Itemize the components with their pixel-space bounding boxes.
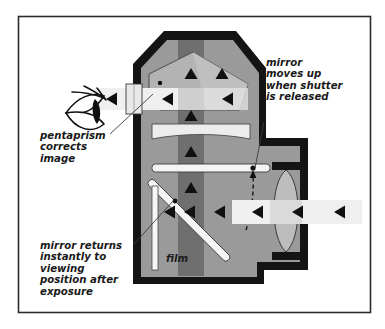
mirror-up-label-line-1: mirror (266, 57, 303, 68)
mirror-returns-line-4: position after (39, 274, 119, 285)
mirror-pivot-point (250, 165, 255, 170)
mirror-up-label-line-4: is released (266, 91, 329, 102)
mirror-up-position (152, 164, 270, 172)
pentaprism-label-line-1: pentaprism (39, 130, 106, 141)
mirror-returns-line-2: instantly to (40, 251, 106, 262)
eyepiece-viewfinder (126, 84, 142, 114)
mirror-up-label-line-2: moves up (266, 68, 321, 79)
camera-cross-section-diagram: pentaprism corrects image mirror moves u… (0, 0, 385, 329)
film-label: film (166, 253, 189, 264)
lens-mount-top (272, 162, 300, 170)
eyepiece-beam-overlap (178, 88, 204, 110)
mirror-returns-line-5: exposure (40, 286, 93, 297)
pentaprism-label-line-2: corrects (40, 141, 87, 152)
lens-mount-bottom (272, 252, 300, 260)
mirror-returns-line-3: viewing (40, 263, 85, 274)
figure-root: pentaprism corrects image mirror moves u… (0, 0, 385, 329)
film-plane (152, 186, 158, 270)
pentaprism-corner-dot (158, 81, 162, 85)
mirror-up-label-line-3: when shutter (266, 80, 344, 91)
mirror-returns-line-1: mirror returns (40, 240, 122, 251)
film-strip (152, 186, 158, 270)
pentaprism-label-line-3: image (40, 153, 75, 164)
